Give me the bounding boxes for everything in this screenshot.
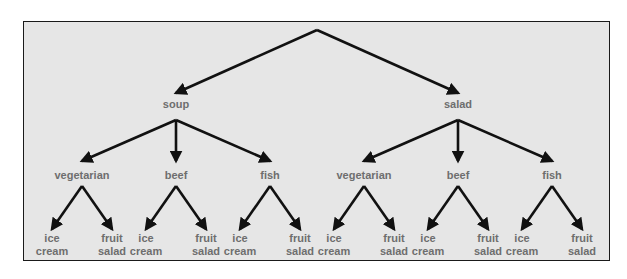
node-salad-beef: beef [447,169,470,182]
node-salad: salad [444,98,472,111]
node-soup: soup [163,98,189,111]
node-soup-vegetarian: vegetarian [54,169,109,182]
leaf-soup-beef-ice-cream: icecream [130,232,162,258]
arrow-soup-fish-to-ice-cream [240,186,270,229]
leaf-soup-beef-fruit-salad: fruitsalad [192,232,220,258]
arrow-soup-to-fish [176,120,270,161]
leaf-salad-vegetarian-ice-cream: icecream [318,232,350,258]
arrow-soup-beef-to-ice-cream [146,186,176,229]
leaf-salad-beef-fruit-salad: fruitsalad [474,232,502,258]
leaf-soup-fish-fruit-salad: fruitsalad [286,232,314,258]
leaf-soup-vegetarian-ice-cream: icecream [36,232,68,258]
arrow-salad-beef-to-fruit-salad [458,186,488,229]
node-soup-fish: fish [260,169,280,182]
arrow-salad-fish-to-fruit-salad [552,186,582,229]
leaf-salad-beef-ice-cream: icecream [412,232,444,258]
arrow-soup-vegetarian-to-fruit-salad [82,186,112,229]
arrow-salad-fish-to-ice-cream [522,186,552,229]
arrow-salad-to-fish [458,120,552,161]
arrow-root-to-salad [317,30,458,93]
arrow-soup-fish-to-fruit-salad [270,186,300,229]
leaf-soup-fish-ice-cream: icecream [224,232,256,258]
arrow-salad-vegetarian-to-ice-cream [334,186,364,229]
node-salad-vegetarian: vegetarian [336,169,391,182]
arrow-salad-beef-to-ice-cream [428,186,458,229]
leaf-salad-fish-ice-cream: icecream [506,232,538,258]
arrow-soup-beef-to-fruit-salad [176,186,206,229]
node-soup-beef: beef [165,169,188,182]
arrow-salad-to-vegetarian [364,120,458,161]
arrow-soup-to-vegetarian [82,120,176,161]
arrow-salad-vegetarian-to-fruit-salad [364,186,394,229]
arrow-soup-vegetarian-to-ice-cream [52,186,82,229]
leaf-salad-vegetarian-fruit-salad: fruitsalad [380,232,408,258]
node-salad-fish: fish [542,169,562,182]
arrow-root-to-soup [176,30,317,93]
leaf-salad-fish-fruit-salad: fruitsalad [568,232,596,258]
leaf-soup-vegetarian-fruit-salad: fruitsalad [98,232,126,258]
